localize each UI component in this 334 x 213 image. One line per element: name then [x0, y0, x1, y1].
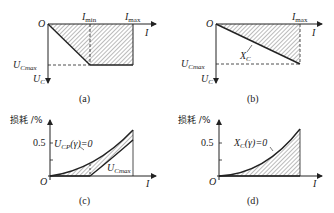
panel-d-x-axis-label: I [313, 179, 316, 189]
figure-canvas [0, 0, 334, 213]
panel-c-lower-sub: Cmax [114, 167, 130, 175]
panel-d-origin: O [209, 177, 216, 187]
panel-d [217, 120, 322, 180]
panel-a-hatched-region [48, 24, 133, 65]
panel-b-ucmax-sub: Cmax [188, 63, 204, 71]
panel-b-uc-sub: C [208, 78, 213, 86]
panel-c-origin: O [40, 177, 47, 187]
panel-c-upper-rest: (γ)=0 [70, 138, 92, 149]
panel-b-xc-label: XC [240, 51, 251, 63]
panel-a-origin: O [38, 19, 45, 29]
panel-b [216, 24, 322, 83]
panel-a-ucmax-label: UCmax [13, 60, 37, 72]
panel-d-curve-leader [270, 147, 273, 151]
panel-b-caption: (b) [247, 94, 259, 104]
panel-d-y-axis-label: 损耗 /% [178, 116, 210, 125]
panel-c-caption: (c) [79, 196, 90, 206]
panel-d-curve-label: XC(γ)=0 [234, 138, 267, 150]
panel-c-y-tick-label: 0.5 [33, 138, 46, 148]
panel-b-x-axis-label: I [312, 28, 315, 38]
panel-c-upper-sub: CP [61, 143, 70, 151]
panel-d-curve-rest: (γ)=0 [245, 137, 267, 148]
panel-b-ucmax-label: UCmax [181, 59, 205, 71]
panel-b-origin: O [206, 19, 213, 29]
panel-a-imax-label: Imax [125, 12, 140, 24]
panel-a-uc-sub: C [40, 78, 45, 86]
panel-c-x-axis-label: I [146, 179, 149, 189]
panel-d-y-tick-label: 0.5 [201, 138, 214, 148]
panel-a-caption: (a) [79, 94, 90, 104]
panel-b-xc-sub: C [246, 55, 251, 63]
panel-c-upper-curve-label: UCP(γ)=0 [54, 139, 93, 151]
panel-b-imax-sub: max [295, 16, 307, 24]
panel-b-y-axis-label: UC [201, 74, 213, 86]
panel-d-caption: (d) [247, 196, 259, 206]
panel-a-y-axis-label: UC [33, 74, 45, 86]
panel-a-imax-sub: max [128, 16, 140, 24]
panel-b-imax-label: Imax [292, 12, 307, 24]
panel-a-ucmax-sub: Cmax [20, 64, 36, 72]
panel-c-y-axis-label: 损耗 /% [10, 116, 42, 125]
panel-a-x-axis-label: I [145, 28, 148, 38]
panel-a-imin-sub: min [85, 16, 96, 24]
panel-c-lower-curve-label: UCmax [107, 163, 131, 175]
panel-a-imin-label: Imin [82, 12, 96, 24]
panel-a [48, 24, 156, 83]
